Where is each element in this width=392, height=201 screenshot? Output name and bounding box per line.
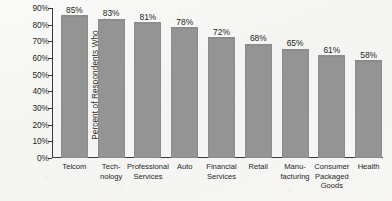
bar[interactable]	[171, 27, 198, 158]
bar-group[interactable]: 65%	[282, 8, 309, 158]
bar-group[interactable]: 58%	[355, 8, 382, 158]
y-axis-tick-label: 10%	[20, 136, 49, 146]
plot-area: 85%83%81%78%72%68%65%61%58%	[52, 8, 383, 158]
bar-value-label: 58%	[348, 50, 389, 60]
y-axis-tick-label: 60%	[20, 53, 49, 63]
y-axis-tick-label: 70%	[20, 36, 49, 46]
bar-group[interactable]: 78%	[171, 8, 198, 158]
y-axis-tick-label: 80%	[20, 20, 49, 30]
bar-group[interactable]: 81%	[134, 8, 161, 158]
bar[interactable]	[282, 49, 309, 158]
y-axis-tick-mark	[48, 25, 52, 26]
bar-group[interactable]: 83%	[98, 8, 125, 158]
y-axis-tick-label: 40%	[20, 86, 49, 96]
x-axis-category-label-line: Services	[123, 172, 173, 182]
bar-group[interactable]: 85%	[61, 8, 88, 158]
bar-value-label: 81%	[127, 12, 168, 22]
y-axis-tick-mark	[48, 8, 52, 9]
bar[interactable]	[61, 15, 88, 158]
bar[interactable]	[98, 19, 125, 158]
y-axis-tick-label: 0%	[20, 153, 49, 163]
y-axis-tick-labels: 0%10%20%30%40%50%60%70%80%90%	[20, 0, 49, 170]
bar-group[interactable]: 61%	[318, 8, 345, 158]
y-axis-tick-mark	[48, 91, 52, 92]
x-axis-category-label-line: Packaged	[307, 172, 357, 182]
bar-chart-figure: Percent of Respondents Who Restructured …	[0, 0, 392, 201]
y-axis-tick-mark	[48, 125, 52, 126]
bar-value-label: 83%	[91, 8, 132, 18]
y-axis-tick-mark	[48, 41, 52, 42]
bar-group[interactable]: 68%	[245, 8, 272, 158]
y-axis-tick-label: 90%	[20, 3, 49, 13]
y-axis-tick-label: 50%	[20, 70, 49, 80]
bar[interactable]	[245, 44, 272, 158]
bar-group[interactable]: 72%	[208, 8, 235, 158]
x-axis-category-label-line: Health	[344, 162, 392, 172]
x-axis-category-label-line: Goods	[307, 181, 357, 191]
bar-value-label: 72%	[201, 27, 242, 37]
bar[interactable]	[134, 22, 161, 158]
bars-layer: 85%83%81%78%72%68%65%61%58%	[52, 8, 383, 158]
y-axis-tick-mark	[48, 158, 52, 159]
bar-value-label: 78%	[164, 17, 205, 27]
y-axis-tick-label: 20%	[20, 120, 49, 130]
bar-value-label: 68%	[238, 33, 279, 43]
bar[interactable]	[208, 37, 235, 158]
y-axis-tick-mark	[48, 141, 52, 142]
y-axis-tick-mark	[48, 75, 52, 76]
x-axis-category-label-line: Services	[197, 172, 247, 182]
bar-value-label: 61%	[311, 45, 352, 55]
x-axis-tick-labels: TelcomTech-nologyProfessionalServicesAut…	[52, 162, 383, 201]
y-axis-tick-label: 30%	[20, 103, 49, 113]
bar-value-label: 85%	[54, 5, 95, 15]
y-axis-tick-mark	[48, 108, 52, 109]
x-axis-category-label: Health	[344, 162, 392, 172]
bar[interactable]	[355, 60, 382, 158]
y-axis-tick-mark	[48, 58, 52, 59]
bar-value-label: 65%	[275, 38, 316, 48]
bar[interactable]	[318, 55, 345, 158]
